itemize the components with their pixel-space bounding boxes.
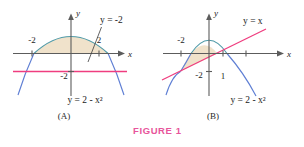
panel-a-ytick-label-neg2: -2 bbox=[60, 71, 68, 81]
panel-a-x-axis-arrow bbox=[118, 51, 125, 57]
panel-b-y-axis-label: y bbox=[213, 8, 218, 18]
figure-caption: FIGURE 1 bbox=[133, 125, 182, 136]
panel-a-x-axis-label: x bbox=[127, 49, 132, 59]
panel-b-xtick-label-1: 1 bbox=[221, 71, 226, 81]
panel-b-ytick-label-neg2: -2 bbox=[195, 70, 203, 80]
panel-b-curve-label: y = 2 - x² bbox=[230, 95, 265, 105]
panel-b: -2 1 -2 x y y = x y = 2 - x² (B) bbox=[162, 8, 291, 121]
panel-a: -2 2 -2 x y y = -2 y = 2 - x² (A) bbox=[13, 8, 132, 121]
panel-a-line-label: y = -2 bbox=[100, 15, 123, 25]
panel-b-xtick-label-neg2: -2 bbox=[177, 35, 185, 45]
panel-b-y-axis-arrow bbox=[206, 14, 212, 21]
panel-a-xtick-label-neg2: -2 bbox=[28, 35, 36, 45]
panel-a-parabola-left bbox=[18, 54, 34, 96]
panel-a-parabola-right bbox=[108, 54, 124, 96]
panel-a-y-axis-label: y bbox=[75, 8, 80, 18]
panel-b-label: (B) bbox=[207, 111, 219, 121]
panel-a-label: (A) bbox=[58, 111, 71, 121]
panel-a-y-axis-arrow bbox=[68, 14, 74, 21]
panel-b-x-axis-arrow bbox=[277, 51, 284, 57]
panel-b-line-label: y = x bbox=[243, 16, 263, 26]
panel-a-curve-label: y = 2 - x² bbox=[67, 95, 102, 105]
panel-b-x-axis-label: x bbox=[286, 49, 291, 59]
panel-b-parabola-right bbox=[227, 54, 256, 97]
figure-container: -2 2 -2 x y y = -2 y = 2 - x² (A) bbox=[0, 0, 304, 147]
